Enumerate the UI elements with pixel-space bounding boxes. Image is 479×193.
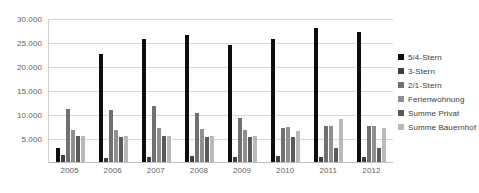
bar (157, 128, 161, 162)
bar (228, 45, 232, 162)
bar (114, 130, 118, 162)
legend-swatch-icon (398, 110, 404, 116)
bar (314, 28, 318, 162)
bar (190, 156, 194, 162)
legend-swatch-icon (398, 124, 404, 130)
bar (200, 129, 204, 162)
bar (195, 113, 199, 162)
bar (334, 148, 338, 162)
legend-item: 3-Stern (398, 64, 479, 78)
bar (367, 126, 371, 162)
bar (142, 39, 146, 162)
legend-item: Summe Privat (398, 106, 479, 120)
legend-label: Summe Privat (408, 109, 459, 118)
x-axis-tick: 2007 (134, 166, 177, 175)
bar (152, 106, 156, 162)
bar-group (264, 19, 307, 162)
bar (147, 157, 151, 162)
bar (99, 54, 103, 162)
x-axis-tick: 2005 (48, 166, 91, 175)
bar (377, 148, 381, 162)
legend-item: Summe Bauernhof (398, 120, 479, 134)
bar (243, 130, 247, 162)
legend-label: 3-Stern (408, 67, 435, 76)
bar-group (49, 19, 92, 162)
bar (296, 131, 300, 162)
bar (362, 157, 366, 162)
y-axis-tick: 5.000 (21, 135, 42, 144)
bar (281, 128, 285, 162)
legend-item: 5/4-Stern (398, 50, 479, 64)
bar (162, 136, 166, 162)
y-axis-tick: 30.000 (17, 15, 42, 24)
bar (233, 157, 237, 162)
bar (329, 126, 333, 162)
legend-swatch-icon (398, 68, 404, 74)
bar (276, 156, 280, 162)
y-axis-tick: 20.000 (17, 63, 42, 72)
bar (319, 157, 323, 162)
x-axis-tick: 2008 (177, 166, 220, 175)
bar (66, 109, 70, 162)
legend-item: Ferienwohnung (398, 92, 479, 106)
bar (324, 126, 328, 162)
bar (271, 39, 275, 162)
bar-group (178, 19, 221, 162)
chart-legend: 5/4-Stern3-Stern2/1-SternFerienwohnungSu… (398, 50, 479, 134)
bar (76, 136, 80, 162)
bar (339, 119, 343, 162)
y-axis-tick: 25.000 (17, 39, 42, 48)
y-axis-tick: 15.000 (17, 87, 42, 96)
legend-label: Ferienwohnung (408, 95, 464, 104)
bar (81, 136, 85, 162)
legend-swatch-icon (398, 82, 404, 88)
bar (291, 137, 295, 162)
y-axis-tick: 10.000 (17, 111, 42, 120)
legend-swatch-icon (398, 54, 404, 60)
legend-item: 2/1-Stern (398, 78, 479, 92)
bar-group (92, 19, 135, 162)
bar (104, 158, 108, 162)
bar (124, 136, 128, 162)
bar-group (307, 19, 350, 162)
bar (61, 155, 65, 162)
bar-chart: 5.00010.00015.00020.00025.00030.000 2005… (0, 0, 479, 193)
bar (56, 148, 60, 162)
x-axis: 20052006200720082009201020112012 (48, 166, 393, 175)
bar-groups (49, 19, 393, 162)
bar-group (350, 19, 393, 162)
x-axis-tick: 2010 (264, 166, 307, 175)
bar (357, 32, 361, 162)
legend-label: Summe Bauernhof (408, 123, 476, 132)
x-axis-tick: 2009 (221, 166, 264, 175)
bar (286, 127, 290, 162)
bar-group (221, 19, 264, 162)
bar (372, 126, 376, 162)
bar (238, 118, 242, 162)
x-axis-tick: 2011 (307, 166, 350, 175)
bar (382, 128, 386, 162)
x-axis-tick: 2012 (350, 166, 393, 175)
bar (185, 35, 189, 162)
x-axis-tick: 2006 (91, 166, 134, 175)
plot-area (48, 19, 393, 163)
bar-group (135, 19, 178, 162)
legend-swatch-icon (398, 96, 404, 102)
legend-label: 2/1-Stern (408, 81, 442, 90)
bar (248, 137, 252, 162)
bar (71, 130, 75, 162)
bar (119, 137, 123, 162)
bar (167, 136, 171, 162)
bar (253, 136, 257, 162)
bar (109, 110, 113, 162)
legend-label: 5/4-Stern (408, 53, 442, 62)
bar (205, 137, 209, 162)
bar (210, 136, 214, 162)
y-axis: 5.00010.00015.00020.00025.00030.000 (0, 19, 46, 163)
